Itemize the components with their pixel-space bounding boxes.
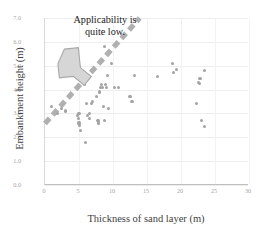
data-point xyxy=(95,95,98,98)
data-point xyxy=(85,102,88,105)
data-point xyxy=(103,45,106,48)
data-point xyxy=(88,117,91,120)
data-point xyxy=(60,107,63,110)
data-point xyxy=(175,68,178,71)
data-point xyxy=(156,75,159,78)
data-point xyxy=(102,105,105,108)
gridline-horizontal xyxy=(45,185,248,186)
scatter-chart-figure: 0.01.02.03.04.05.06.07.0 051015202530 Ap… xyxy=(0,0,270,251)
data-point xyxy=(105,86,108,89)
gridline-vertical xyxy=(215,18,216,184)
gridline-vertical xyxy=(113,18,114,184)
x-axis-tick-label: 30 xyxy=(237,188,259,194)
data-point xyxy=(91,100,94,103)
gridline-vertical xyxy=(181,18,182,184)
x-axis-tick-label: 20 xyxy=(169,188,191,194)
annotation-text: Applicability is quite low. xyxy=(57,14,153,38)
x-axis-tick-label: 15 xyxy=(135,188,157,194)
annotation-line-1: Applicability is xyxy=(73,14,136,25)
data-point xyxy=(107,107,110,110)
x-axis-tick-label: 0 xyxy=(33,188,55,194)
data-point xyxy=(103,119,106,122)
x-axis-tick-label: 10 xyxy=(101,188,123,194)
gridline-vertical xyxy=(249,18,250,184)
data-point xyxy=(171,62,174,65)
data-point xyxy=(117,86,120,89)
data-point xyxy=(56,112,59,115)
data-point xyxy=(77,117,80,120)
data-point xyxy=(203,69,206,72)
data-point xyxy=(78,124,81,127)
data-point xyxy=(200,119,203,122)
data-point xyxy=(198,82,201,85)
data-point xyxy=(84,141,87,144)
data-point xyxy=(128,95,131,98)
data-point xyxy=(172,71,175,74)
data-point xyxy=(88,112,91,115)
data-point xyxy=(198,77,201,80)
x-axis-tick-label: 5 xyxy=(67,188,89,194)
data-point xyxy=(97,121,100,124)
gridline-vertical xyxy=(147,18,148,184)
data-point xyxy=(195,102,198,105)
x-axis-tick-label: 25 xyxy=(203,188,225,194)
data-point xyxy=(203,125,206,128)
data-point xyxy=(64,109,67,112)
y-axis-title: Embankment height (m) xyxy=(14,14,25,184)
data-point xyxy=(106,74,109,77)
data-point xyxy=(113,86,116,89)
x-axis-title: Thickness of sand layer (m) xyxy=(44,213,248,224)
data-point xyxy=(50,105,53,108)
data-point xyxy=(77,112,80,115)
arrow-shape xyxy=(56,47,92,88)
callout-arrow-icon xyxy=(56,38,102,94)
data-point xyxy=(133,74,136,77)
annotation-line-2: quite low. xyxy=(85,26,125,37)
data-point xyxy=(79,129,82,132)
data-point xyxy=(130,100,133,103)
